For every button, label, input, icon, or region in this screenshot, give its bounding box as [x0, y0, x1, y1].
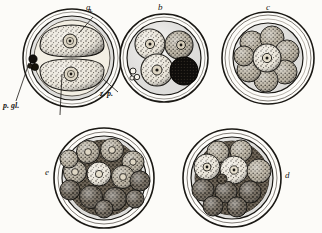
- stage-label-c: c: [266, 3, 270, 12]
- annotation-label-nucleus: n.: [88, 7, 93, 13]
- annotation-label-polar-globules: p. gl.: [3, 102, 19, 110]
- stage-label-b: b: [158, 3, 163, 12]
- stage-d-embryo: [183, 129, 281, 227]
- stage-label-d: d: [285, 171, 290, 180]
- stage-a-blastomere-lower: [40, 59, 104, 91]
- stage-e-embryo: [54, 128, 154, 228]
- stage-label-e: e: [45, 168, 49, 177]
- stage-a-blastomere-upper: [40, 25, 104, 57]
- embryo-cleavage-figure: a b c e d n. z. p. p. gl.: [0, 0, 322, 233]
- stage-b-embryo: [120, 14, 208, 102]
- annotation-label-zona-pellucida: z. p.: [100, 90, 113, 98]
- stage-c-embryo: [222, 12, 314, 104]
- leader-line-polar-globules: [16, 63, 29, 101]
- figure-illustration: [0, 0, 322, 233]
